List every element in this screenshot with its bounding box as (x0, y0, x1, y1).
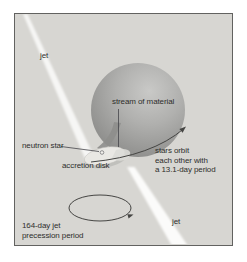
neutron-star-label: neutron star (22, 141, 64, 151)
orbit-period-note-line1: stars orbit (155, 146, 216, 156)
precession-arrowhead-icon (127, 214, 133, 218)
jet-label-bottom: jet (172, 217, 180, 227)
diagram-frame (14, 13, 233, 246)
diagram-canvas (15, 14, 231, 244)
stream-of-material-label: stream of material (112, 97, 174, 107)
neutron-star-leader-line (61, 147, 99, 152)
precession-period-note-line1: 164-day jet (22, 221, 83, 231)
jet-label-top: jet (40, 51, 48, 61)
orbit-period-note-line3: a 13.1-day period (155, 165, 216, 175)
neutron-star-dot (100, 151, 104, 155)
precession-period-note: 164-day jet precession period (22, 221, 83, 240)
precession-ellipse (69, 195, 131, 221)
orbit-period-note: stars orbit each other with a 13.1-day p… (155, 146, 216, 175)
jet-beam-lower (127, 167, 188, 244)
orbit-period-note-line2: each other with (155, 156, 216, 166)
diagram-page: jet stream of material neutron star accr… (0, 0, 247, 262)
jet-beam-upper (23, 14, 96, 161)
accretion-disk-label: accretion disk (62, 161, 110, 171)
precession-period-note-line2: precession period (22, 231, 83, 241)
